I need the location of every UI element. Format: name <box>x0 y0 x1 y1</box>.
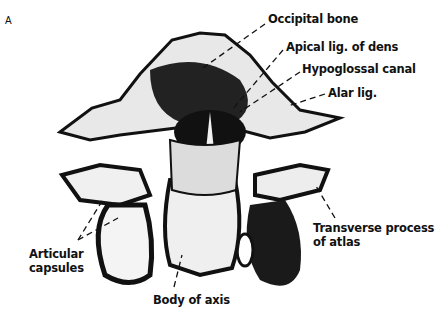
label-transverse-process-line1: Transverse process <box>313 221 434 235</box>
label-articular-capsules-line1: Articular <box>29 247 84 261</box>
left-lateral-mass <box>62 165 150 205</box>
label-articular-capsules: Articular capsules <box>29 247 84 275</box>
label-articular-capsules-line2: capsules <box>29 261 84 275</box>
label-apical-ligament: Apical lig. of dens <box>286 40 398 54</box>
label-hypoglossal-canal: Hypoglossal canal <box>302 62 416 76</box>
label-occipital-bone: Occipital bone <box>268 12 358 26</box>
label-transverse-process: Transverse process of atlas <box>313 221 434 249</box>
label-body-of-axis: Body of axis <box>153 293 230 307</box>
label-transverse-process-line2: of atlas <box>313 235 434 249</box>
right-lateral-mass <box>255 165 328 200</box>
label-alar-ligament: Alar lig. <box>328 86 377 100</box>
